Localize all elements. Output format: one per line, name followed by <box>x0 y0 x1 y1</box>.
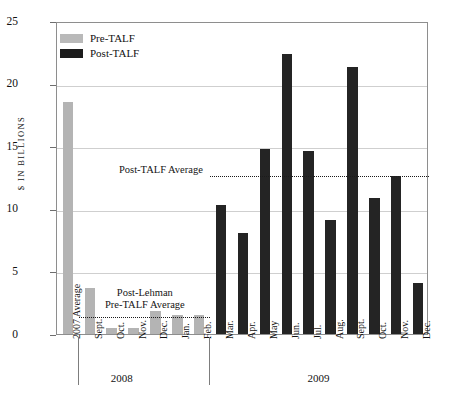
group-separator <box>78 337 79 385</box>
legend-swatch <box>60 34 83 43</box>
legend-label: Post-TALF <box>90 47 139 59</box>
legend: Pre-TALFPost-TALF <box>60 32 139 62</box>
x-tick-label: Oct. <box>377 322 388 339</box>
post-lehman-label-line2: Pre-TALF Average <box>105 299 185 311</box>
legend-item: Pre-TALF <box>60 32 139 44</box>
group-separator <box>209 337 210 385</box>
x-tick-label: Mar. <box>224 320 235 339</box>
x-tick-label: Aug. <box>334 319 345 339</box>
bar <box>303 151 314 334</box>
x-tick-label: Jul. <box>312 325 323 339</box>
bar <box>369 198 380 334</box>
gridline-15 <box>57 148 427 149</box>
y-tick-label-5: 5 <box>0 265 18 277</box>
y-tick-label-25: 25 <box>0 15 18 27</box>
x-tick-label: Sept. <box>355 319 366 339</box>
x-group-label: 2008 <box>82 372 162 384</box>
x-tick-label: Feb. <box>202 322 213 340</box>
plot-area: Post-TALF AveragePost-LehmanPre-TALF Ave… <box>56 22 428 335</box>
y-tick-label-10: 10 <box>0 202 18 214</box>
x-tick-label: Nov. <box>399 320 410 339</box>
y-tick-label-20: 20 <box>0 77 18 89</box>
post-talf-average-line <box>210 176 429 177</box>
bar <box>216 205 227 334</box>
bar <box>325 220 336 334</box>
post-lehman-label-line1: Post-Lehman <box>105 287 185 299</box>
x-tick-label: Dec. <box>158 320 169 339</box>
gridline-20 <box>57 86 427 87</box>
y-tick-mark-0 <box>50 335 56 336</box>
x-tick-label: Nov. <box>137 320 148 339</box>
legend-item: Post-TALF <box>60 47 139 59</box>
y-axis-title: $ IN BILLIONS <box>16 88 26 218</box>
x-tick-label: Apr. <box>246 322 257 340</box>
x-tick-label: 2007 Average <box>71 284 82 339</box>
legend-label: Pre-TALF <box>90 32 135 44</box>
bar <box>282 54 293 334</box>
bar-chart: $ IN BILLIONS 0510152025 Post-TALF Avera… <box>0 0 450 415</box>
x-tick-label: May <box>268 321 279 339</box>
x-tick-label: Jan. <box>180 323 191 339</box>
y-tick-label-15: 15 <box>0 140 18 152</box>
post-lehman-pre-talf-average-label: Post-LehmanPre-TALF Average <box>105 287 185 310</box>
bar <box>391 176 402 334</box>
bar <box>347 67 358 334</box>
post-talf-average-label: Post-TALF Average <box>119 164 203 176</box>
x-tick-label: Sept. <box>93 319 104 339</box>
y-tick-label-0: 0 <box>0 328 18 340</box>
legend-swatch <box>60 49 83 58</box>
bar <box>238 233 249 334</box>
x-group-label: 2009 <box>279 372 359 384</box>
x-tick-label: Jun. <box>290 323 301 339</box>
x-tick-label: Oct. <box>115 322 126 339</box>
x-tick-label: Dec. <box>421 320 432 339</box>
